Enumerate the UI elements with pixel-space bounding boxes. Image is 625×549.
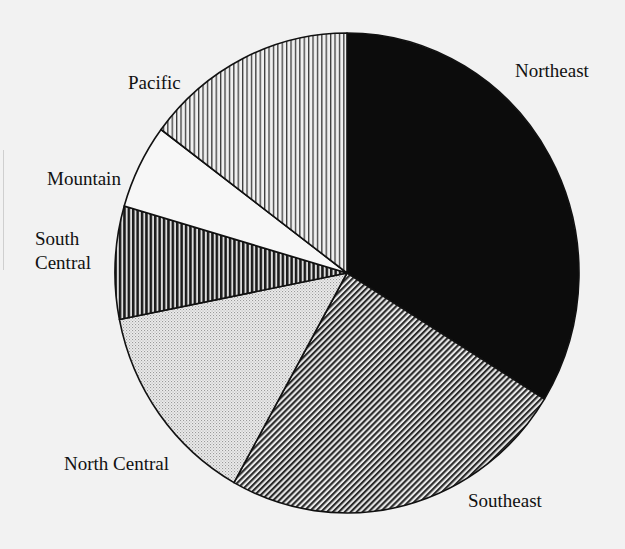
slice-label-line: Northeast: [515, 60, 590, 81]
slice-label-south-central: SouthCentral: [35, 228, 91, 273]
slice-label-mountain: Mountain: [47, 168, 121, 189]
slice-label-southeast: Southeast: [468, 490, 543, 511]
slice-label-line: Southeast: [468, 490, 543, 511]
slice-label-line: North Central: [64, 453, 169, 474]
slice-label-line: Central: [35, 252, 91, 273]
slice-label-pacific: Pacific: [128, 72, 181, 93]
pie-chart: NortheastSoutheastNorth CentralSouthCent…: [0, 0, 625, 549]
scan-artifact-line: [3, 150, 4, 270]
slice-label-northeast: Northeast: [515, 60, 590, 81]
slice-label-north-central: North Central: [64, 453, 169, 474]
pie-chart-svg: NortheastSoutheastNorth CentralSouthCent…: [0, 0, 625, 549]
slice-label-line: South: [35, 228, 80, 249]
slice-label-line: Pacific: [128, 72, 181, 93]
slice-label-line: Mountain: [47, 168, 121, 189]
pie-slices: [115, 33, 579, 513]
